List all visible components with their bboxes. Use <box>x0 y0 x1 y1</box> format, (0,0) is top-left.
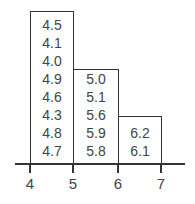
value-label: 4.8 <box>42 124 61 142</box>
value-label: 4.3 <box>42 106 61 124</box>
value-label: 5.8 <box>86 142 105 160</box>
value-label: 4.6 <box>42 88 61 106</box>
value-label: 5.0 <box>86 70 105 88</box>
bar-values: 4.5 4.1 4.0 4.9 4.6 4.3 4.8 4.7 <box>31 16 73 160</box>
bar-values: 5.0 5.1 5.6 5.9 5.8 <box>74 70 118 160</box>
x-tick <box>72 164 74 173</box>
x-tick <box>29 164 31 173</box>
x-tick <box>117 164 119 173</box>
histogram-bar-4-5: 4.5 4.1 4.0 4.9 4.6 4.3 4.8 4.7 <box>30 11 74 164</box>
x-tick <box>160 164 162 173</box>
value-label: 5.1 <box>86 88 105 106</box>
histogram-bar-5-6: 5.0 5.1 5.6 5.9 5.8 <box>73 69 119 164</box>
x-tick-label: 5 <box>63 175 83 192</box>
value-label: 4.5 <box>42 16 61 34</box>
value-label: 4.0 <box>42 52 61 70</box>
value-label: 5.6 <box>86 106 105 124</box>
bar-values: 6.2 6.1 <box>119 124 161 160</box>
x-tick-label: 4 <box>20 175 40 192</box>
value-label: 5.9 <box>86 124 105 142</box>
value-label: 6.2 <box>130 124 149 142</box>
histogram-bar-6-7: 6.2 6.1 <box>118 116 162 164</box>
histogram-chart: 4.5 4.1 4.0 4.9 4.6 4.3 4.8 4.7 5.0 5.1 … <box>0 0 195 204</box>
value-label: 4.7 <box>42 142 61 160</box>
x-tick-label: 7 <box>151 175 171 192</box>
x-tick-label: 6 <box>108 175 128 192</box>
value-label: 4.9 <box>42 70 61 88</box>
value-label: 4.1 <box>42 34 61 52</box>
value-label: 6.1 <box>130 142 149 160</box>
